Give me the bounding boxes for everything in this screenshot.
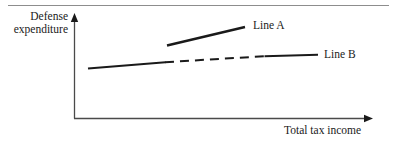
x-axis-arrow-icon (364, 115, 373, 122)
series-label-line-b: Line B (324, 48, 356, 61)
line-b-solid-right-segment (265, 55, 319, 56)
y-axis-arrow-icon (71, 13, 78, 22)
defense-expenditure-chart-figure: Defense expenditure Total tax income Lin… (0, 0, 395, 142)
x-axis (74, 115, 373, 122)
series-line-b (88, 55, 318, 69)
series-line-a (167, 27, 245, 46)
series-label-line-a: Line A (253, 19, 285, 32)
line-a-solid-segment (167, 27, 245, 46)
x-axis-label: Total tax income (284, 124, 361, 137)
y-axis-label: Defense expenditure (4, 10, 68, 36)
y-axis-label-line-1: Defense (4, 10, 68, 23)
line-b-solid-left-segment (88, 62, 166, 68)
line-b-dashed-middle-segment (165, 56, 265, 62)
y-axis (71, 13, 78, 119)
y-axis-label-line-2: expenditure (4, 23, 68, 36)
